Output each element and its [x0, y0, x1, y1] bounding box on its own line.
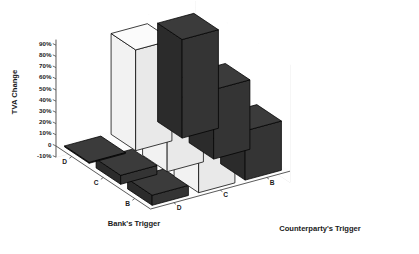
bar-D-B	[158, 13, 219, 138]
y-tick-label-10: 10%	[39, 129, 52, 136]
bar-face-left	[158, 23, 183, 138]
bar-face-right	[245, 121, 281, 180]
x-tick-label-C: C	[94, 179, 99, 186]
y-tick-label-80: 80%	[39, 51, 52, 58]
y-tick-label-40: 40%	[39, 96, 52, 103]
z-axis-title: Counterparty's Trigger	[279, 224, 361, 233]
y-tick-label-20: 20%	[39, 118, 52, 125]
z-tick-label-C: C	[223, 191, 228, 198]
chart-container: 90%80%70%60%50%40%30%20%10%0-10%DCBDCB T…	[0, 0, 419, 254]
y-tick-label-90: 90%	[39, 40, 52, 47]
bar-face-right	[214, 80, 250, 159]
y-tick-label-0: 0	[48, 141, 52, 148]
tva-change-3d-bar-chart: 90%80%70%60%50%40%30%20%10%0-10%DCBDCB T…	[0, 0, 419, 254]
y-tick-label-60: 60%	[39, 73, 52, 80]
y-tick-label-50: 50%	[39, 85, 52, 92]
z-tick-label-D: D	[177, 204, 182, 211]
bar-face-left	[111, 34, 136, 151]
x-tick-label-B: B	[125, 200, 130, 207]
y-tick-label-70: 70%	[39, 62, 52, 69]
y-tick-label--10: -10%	[37, 152, 52, 159]
x-tick-label-D: D	[62, 158, 67, 165]
y-tick-label-30: 30%	[39, 107, 52, 114]
z-tick-label-B: B	[270, 179, 275, 186]
x-axis-title: Bank's Trigger	[108, 219, 160, 228]
bar-face-right	[182, 30, 218, 138]
y-axis-title: TVA Change	[10, 70, 19, 114]
